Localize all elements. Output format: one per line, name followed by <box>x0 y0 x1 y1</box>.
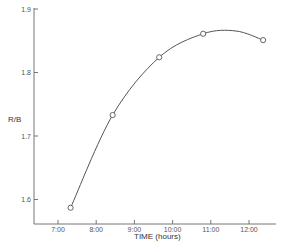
x-tick-label: 8:00 <box>89 226 103 233</box>
data-point-marker <box>110 112 115 117</box>
x-axis-label: TIME (hours) <box>134 232 181 241</box>
fit-curve <box>71 30 264 208</box>
data-point-marker <box>157 55 162 60</box>
y-tick-label: 1.8 <box>21 69 31 76</box>
data-points <box>68 31 266 210</box>
y-tick-label: 1.9 <box>21 6 31 13</box>
chart: 1.61.71.81.9 7:008:009:0010:0011:0012:00… <box>0 0 284 249</box>
data-point-marker <box>261 38 266 43</box>
data-point-marker <box>68 205 73 210</box>
x-tick-label: 12:00 <box>240 226 258 233</box>
x-tick-label: 11:00 <box>202 226 219 233</box>
x-tick-label: 7:00 <box>51 226 65 233</box>
y-tick-label: 1.7 <box>21 133 31 140</box>
axes <box>34 8 276 224</box>
data-point-marker <box>201 31 206 36</box>
y-tick-label: 1.6 <box>21 196 31 203</box>
y-ticks: 1.61.71.81.9 <box>21 6 38 204</box>
y-axis-label: R/B <box>8 115 21 124</box>
